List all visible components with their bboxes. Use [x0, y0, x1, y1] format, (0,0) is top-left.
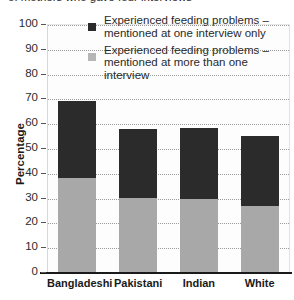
y-axis-tick-mark: [41, 123, 46, 124]
y-axis-tick-mark: [41, 74, 46, 75]
bar-segment-one-interview-only: [180, 128, 218, 199]
chart-legend: Experienced feeding problems – mentioned…: [88, 14, 290, 86]
stacked-bar: [241, 136, 279, 272]
bar-segment-more-than-one-interview: [180, 199, 218, 272]
legend-item: Experienced feeding problems – mentioned…: [88, 14, 290, 40]
bar-segment-more-than-one-interview: [58, 178, 96, 272]
x-axis-line: [40, 272, 292, 274]
bar-chart-figure: of mothers who gave four interviews 0102…: [0, 0, 294, 300]
y-axis-tick-mark: [41, 173, 46, 174]
stacked-bar: [58, 101, 96, 272]
y-axis-tick-mark: [41, 247, 46, 248]
stacked-bar: [119, 129, 157, 272]
bar-segment-one-interview-only: [119, 129, 157, 197]
y-axis-tick-mark: [41, 148, 46, 149]
bar-segment-one-interview-only: [241, 136, 279, 207]
y-axis-tick-label: 0: [4, 266, 38, 278]
y-axis-tick-mark: [41, 49, 46, 50]
legend-item: Experienced feeding problems – mentioned…: [88, 44, 290, 82]
legend-item-label: Experienced feeding problems – mentioned…: [104, 14, 269, 40]
y-axis-tick-label: 10: [4, 241, 38, 253]
y-axis-tick-mark: [41, 98, 46, 99]
y-axis-tick-label: 20: [4, 216, 38, 228]
bar-segment-more-than-one-interview: [119, 198, 157, 272]
x-axis-tick-label: White: [229, 277, 290, 290]
y-axis-tick-mark: [41, 24, 46, 25]
bar-segment-one-interview-only: [58, 101, 96, 178]
y-axis-title: Percentage: [14, 99, 26, 209]
y-axis-tick-label: 100: [4, 18, 38, 30]
x-axis-tick-label: Indian: [169, 277, 230, 290]
legend-item-label: Experienced feeding problems – mentioned…: [104, 44, 290, 82]
y-axis-tick-mark: [41, 198, 46, 199]
y-axis-tick-label: 80: [4, 68, 38, 80]
chart-title: of mothers who gave four interviews: [8, 0, 294, 4]
y-axis-tick-mark: [41, 222, 46, 223]
x-axis-tick-label: Bangladeshi: [47, 277, 108, 290]
x-axis-tick-label: Pakistani: [108, 277, 169, 290]
y-axis-tick-mark: [41, 272, 46, 273]
light-square-swatch: [88, 53, 96, 61]
bar-segment-more-than-one-interview: [241, 206, 279, 272]
y-axis-tick-label: 90: [4, 43, 38, 55]
dark-square-swatch: [88, 23, 96, 31]
stacked-bar: [180, 128, 218, 272]
